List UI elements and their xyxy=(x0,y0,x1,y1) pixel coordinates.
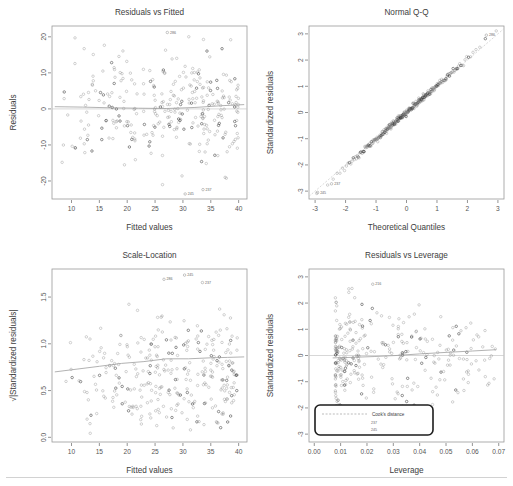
svg-text:35: 35 xyxy=(207,448,215,455)
svg-text:Standardized residuals: Standardized residuals xyxy=(266,71,275,154)
svg-text:0.05: 0.05 xyxy=(440,448,453,455)
plot-normal-qq: Normal Q-Q-3-2-10123-3-2-10123Theoretica… xyxy=(257,0,513,243)
svg-text:25: 25 xyxy=(151,448,159,455)
legend-point-label: 237 xyxy=(371,421,377,425)
svg-text:3: 3 xyxy=(297,32,304,36)
svg-text:-1: -1 xyxy=(297,378,304,384)
svg-text:Residuals: Residuals xyxy=(9,95,18,131)
svg-text:-1: -1 xyxy=(373,205,379,212)
svg-text:-3: -3 xyxy=(297,188,304,194)
svg-text:-3: -3 xyxy=(312,205,318,212)
plot-residuals-vs-fitted: Residuals vs Fitted10152025303540-20-100… xyxy=(0,0,256,243)
svg-text:15: 15 xyxy=(96,448,104,455)
point-label: 245 xyxy=(187,273,193,277)
svg-text:0: 0 xyxy=(297,353,304,357)
point-label: 286 xyxy=(170,31,176,35)
chart-top-right: Normal Q-Q-3-2-10123-3-2-10123Theoretica… xyxy=(257,0,513,243)
svg-text:-20: -20 xyxy=(40,176,47,186)
chart-bottom-right: Residuals vs Leverage0.000.010.020.030.0… xyxy=(257,243,513,486)
svg-text:Residuals vs Leverage: Residuals vs Leverage xyxy=(365,251,448,260)
svg-text:Fitted values: Fitted values xyxy=(126,223,172,232)
svg-text:20: 20 xyxy=(124,205,132,212)
chart-bottom-left: Scale-Location101520253035400.00.51.01.5… xyxy=(0,243,256,486)
cooks-distance-legend: Cook's distance237245 xyxy=(315,405,433,435)
svg-text:Residuals vs Fitted: Residuals vs Fitted xyxy=(115,8,185,17)
svg-text:40: 40 xyxy=(235,448,243,455)
plot-scale-location: Scale-Location101520253035400.00.51.01.5… xyxy=(0,243,256,486)
legend-point-label: 245 xyxy=(371,428,377,432)
svg-text:25: 25 xyxy=(151,205,159,212)
svg-text:10: 10 xyxy=(68,448,76,455)
svg-text:35: 35 xyxy=(207,205,215,212)
svg-text:0.04: 0.04 xyxy=(413,448,426,455)
svg-text:-2: -2 xyxy=(297,405,304,411)
point-label: 245 xyxy=(320,191,326,195)
svg-text:30: 30 xyxy=(179,205,187,212)
svg-text:1.0: 1.0 xyxy=(40,339,47,348)
svg-text:2: 2 xyxy=(297,301,304,305)
svg-text:Fitted values: Fitted values xyxy=(126,466,172,475)
svg-text:30: 30 xyxy=(179,448,187,455)
svg-text:Standardized residuals: Standardized residuals xyxy=(266,314,275,397)
svg-text:0: 0 xyxy=(297,110,304,114)
svg-text:0: 0 xyxy=(405,205,409,212)
data-points xyxy=(316,30,498,195)
svg-text:0.06: 0.06 xyxy=(466,448,479,455)
svg-text:0.00: 0.00 xyxy=(308,448,321,455)
svg-text:0.02: 0.02 xyxy=(361,448,374,455)
svg-text:3: 3 xyxy=(496,205,500,212)
point-label: 216 xyxy=(375,282,381,286)
svg-text:2: 2 xyxy=(297,58,304,62)
svg-text:0: 0 xyxy=(40,107,47,111)
svg-text:1.5: 1.5 xyxy=(40,292,47,301)
svg-text:40: 40 xyxy=(235,205,243,212)
plot-residuals-vs-leverage: Residuals vs Leverage0.000.010.020.030.0… xyxy=(257,243,513,486)
svg-text:Scale-Location: Scale-Location xyxy=(122,251,177,260)
data-points xyxy=(65,303,239,435)
svg-text:Leverage: Leverage xyxy=(389,466,424,475)
svg-text:0.5: 0.5 xyxy=(40,386,47,395)
svg-text:Normal Q-Q: Normal Q-Q xyxy=(384,8,428,17)
footer-separator xyxy=(6,477,507,478)
cooks-distance-label: Cook's distance xyxy=(372,412,405,417)
svg-text:20: 20 xyxy=(124,448,132,455)
svg-text:15: 15 xyxy=(96,205,104,212)
svg-text:0.07: 0.07 xyxy=(492,448,505,455)
svg-text:0.0: 0.0 xyxy=(40,432,47,441)
svg-text:10: 10 xyxy=(40,69,47,77)
point-label: 237 xyxy=(206,188,212,192)
svg-text:√|Standardized residuals|: √|Standardized residuals| xyxy=(9,309,18,401)
svg-text:-2: -2 xyxy=(297,162,304,168)
svg-text:0.01: 0.01 xyxy=(334,448,347,455)
svg-text:-2: -2 xyxy=(343,205,349,212)
svg-text:20: 20 xyxy=(40,33,47,41)
point-label: 286 xyxy=(489,33,495,37)
point-label: 286 xyxy=(167,277,173,281)
chart-top-left: Residuals vs Fitted10152025303540-20-100… xyxy=(0,0,256,243)
svg-text:2: 2 xyxy=(466,205,470,212)
svg-text:-3: -3 xyxy=(297,431,304,437)
point-label: 237 xyxy=(205,281,211,285)
svg-text:0.03: 0.03 xyxy=(387,448,400,455)
svg-text:-1: -1 xyxy=(297,135,304,141)
data-points xyxy=(61,36,240,186)
svg-text:3: 3 xyxy=(297,275,304,279)
svg-text:1: 1 xyxy=(435,205,439,212)
svg-text:10: 10 xyxy=(68,205,76,212)
svg-text:Theoretical Quantiles: Theoretical Quantiles xyxy=(368,223,445,232)
point-label: 237 xyxy=(334,182,340,186)
svg-text:-10: -10 xyxy=(40,140,47,150)
diagnostic-plot-panel: Residuals vs Fitted10152025303540-20-100… xyxy=(0,0,513,486)
svg-text:1: 1 xyxy=(297,84,304,88)
svg-text:1: 1 xyxy=(297,327,304,331)
point-label: 245 xyxy=(188,192,194,196)
